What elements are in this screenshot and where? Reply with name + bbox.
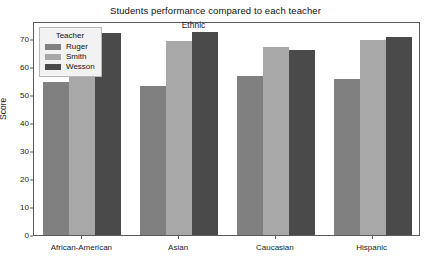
y-axis-label: Score: [0, 98, 8, 120]
legend-swatch-smith: [45, 54, 61, 60]
legend-item-ruger[interactable]: Ruger: [45, 42, 95, 51]
bar-wesson-asian[interactable]: [192, 32, 218, 235]
bar-smith-hispanic[interactable]: [360, 40, 386, 235]
chart-title: Students performance compared to each te…: [0, 5, 431, 16]
x-tick-label-caucasian: Caucasian: [256, 243, 294, 252]
bar-wesson-caucasian[interactable]: [289, 50, 315, 235]
y-axis: 010203040506070: [0, 22, 33, 237]
y-tick-label: 30: [20, 148, 29, 156]
x-tick-mark: [178, 236, 179, 239]
y-tick-label: 70: [20, 36, 29, 44]
bar-ruger-asian[interactable]: [140, 86, 166, 235]
y-tick-label: 0: [25, 232, 29, 240]
bar-chart-figure: Students performance compared to each te…: [0, 0, 431, 270]
bar-ruger-african-american[interactable]: [43, 82, 69, 235]
bar-group-asian: [140, 23, 218, 235]
bar-wesson-hispanic[interactable]: [386, 37, 412, 235]
x-tick-mark: [81, 236, 82, 239]
y-tick-label: 20: [20, 176, 29, 184]
x-tick-label-hispanic: Hispanic: [356, 243, 387, 252]
y-tick-label: 10: [20, 204, 29, 212]
y-tick-label: 50: [20, 92, 29, 100]
legend-swatch-ruger: [45, 44, 61, 50]
bar-smith-asian[interactable]: [166, 41, 192, 235]
bar-group-caucasian: [237, 23, 315, 235]
legend-rows: RugerSmithWesson: [45, 42, 95, 71]
y-tick-label: 60: [20, 64, 29, 72]
y-tick-label: 40: [20, 120, 29, 128]
x-tick-mark: [275, 236, 276, 239]
legend-label-wesson: Wesson: [66, 62, 95, 71]
legend-item-wesson[interactable]: Wesson: [45, 62, 95, 71]
legend-swatch-wesson: [45, 64, 61, 70]
bar-ruger-hispanic[interactable]: [334, 79, 360, 235]
x-tick-label-asian: Asian: [168, 243, 188, 252]
x-axis: African-AmericanAsianCaucasianHispanic: [33, 236, 420, 270]
legend-label-ruger: Ruger: [66, 42, 88, 51]
bar-group-hispanic: [334, 23, 412, 235]
legend-item-smith[interactable]: Smith: [45, 52, 95, 61]
x-tick-label-african-american: African-American: [51, 243, 112, 252]
bar-smith-caucasian[interactable]: [263, 47, 289, 235]
legend-label-smith: Smith: [66, 52, 86, 61]
bar-ruger-caucasian[interactable]: [237, 76, 263, 235]
legend: Teacher RugerSmithWesson: [39, 27, 102, 77]
x-tick-mark: [372, 236, 373, 239]
legend-title: Teacher: [45, 31, 95, 40]
